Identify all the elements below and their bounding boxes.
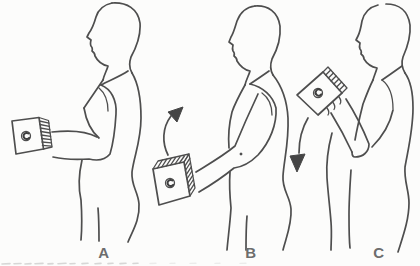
chest-line xyxy=(229,85,245,148)
deltoid-crease xyxy=(99,88,108,111)
head-outline xyxy=(386,4,410,73)
arrow-head xyxy=(168,107,183,122)
inner-crease-line xyxy=(349,170,351,248)
block-side xyxy=(323,67,347,93)
spiral-core-icon xyxy=(24,133,30,139)
block-face xyxy=(297,72,342,115)
spiral-core-icon xyxy=(168,180,174,186)
figure-b-arm xyxy=(196,84,276,192)
panel-label-b: B xyxy=(242,244,260,261)
block-right-hatching xyxy=(185,158,195,192)
figure-b xyxy=(153,6,291,250)
shoulder-line xyxy=(382,66,402,80)
figure-a xyxy=(12,3,141,242)
elbow-dot xyxy=(240,153,242,155)
arrow-shaft xyxy=(164,116,171,155)
belly-line xyxy=(79,160,82,240)
figure-a-arm xyxy=(52,85,116,160)
face-profile xyxy=(87,3,112,80)
caption-smudge xyxy=(2,263,138,264)
forearm-bottom-line xyxy=(331,113,352,152)
weight-block-a xyxy=(12,118,52,155)
up-arrow-icon xyxy=(164,107,183,155)
back-outline xyxy=(273,75,291,250)
deltoid-crease xyxy=(382,80,393,109)
inner-leg-line xyxy=(98,208,99,241)
face-profile xyxy=(229,6,255,85)
block-face xyxy=(153,162,190,205)
exercise-illustration: A B C xyxy=(0,0,420,266)
panel-label-a: A xyxy=(95,244,113,261)
weight-block-c xyxy=(297,67,347,115)
down-arrow-icon xyxy=(290,118,308,172)
cropped-caption-fragment xyxy=(2,263,246,264)
forearm-top-line xyxy=(52,131,97,137)
head-outline xyxy=(112,3,140,73)
back-outline xyxy=(398,73,413,252)
figure-c xyxy=(290,4,413,252)
block-hatching xyxy=(326,70,345,90)
face-profile xyxy=(356,5,378,80)
panel-label-c: C xyxy=(370,244,388,261)
arm-back-line xyxy=(372,110,393,147)
arm-back-line xyxy=(53,85,116,160)
arm-front-line xyxy=(196,94,258,172)
chest-line xyxy=(84,80,103,108)
front-torso-line xyxy=(327,133,332,250)
shoulder-line xyxy=(250,71,269,84)
spiral-core-icon xyxy=(316,89,322,95)
block-face xyxy=(12,118,44,155)
figure-b-body xyxy=(227,6,291,250)
weight-block-b xyxy=(153,154,195,205)
back-outline xyxy=(128,73,141,242)
arrow-head xyxy=(290,154,305,172)
head-outline xyxy=(255,6,280,75)
line-drawing-canvas xyxy=(0,0,420,266)
arrow-shaft xyxy=(299,118,308,153)
front-hip-line xyxy=(227,172,231,250)
